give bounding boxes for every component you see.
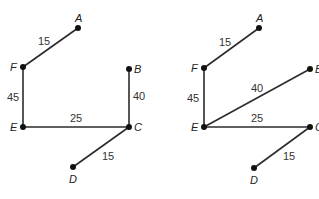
edge-weight-label: 25 [251,112,263,124]
edge-fa [23,28,78,67]
edge-weight-label: 15 [219,36,231,48]
vertex-e [20,124,26,130]
vertex-a [256,25,262,31]
left-graph: 1545402515AFBECD [7,12,145,185]
vertex-c [307,124,313,130]
vertex-d [70,164,76,170]
vertex-label-f: F [10,61,18,73]
vertex-a [75,25,81,31]
edge-weight-label: 15 [283,150,295,162]
vertex-label-c: C [315,121,319,133]
edge-fa [204,28,259,68]
vertex-label-e: E [10,121,18,133]
vertex-label-d: D [250,174,258,186]
vertex-b [307,66,313,72]
right-graph: 1545402515AFBECD [187,12,319,186]
vertex-label-e: E [191,121,199,133]
edge-weight-label: 40 [251,82,263,94]
edge-cd [254,127,310,168]
edge-weight-label: 40 [133,90,145,102]
vertex-label-f: F [191,62,199,74]
vertex-f [201,65,207,71]
vertex-b [126,66,132,72]
vertex-label-a: A [74,12,82,24]
vertex-e [201,124,207,130]
edge-weight-label: 15 [102,150,114,162]
vertex-f [20,64,26,70]
edge-weight-label: 45 [7,91,19,103]
edge-weight-label: 25 [70,112,82,124]
vertex-label-c: C [134,121,142,133]
edge-weight-label: 45 [187,92,199,104]
vertex-label-a: A [255,12,263,24]
edge-cd [73,127,129,167]
vertex-d [251,165,257,171]
edge-weight-label: 15 [38,35,50,47]
vertex-label-d: D [69,173,77,185]
vertex-label-b: B [315,63,319,75]
vertex-c [126,124,132,130]
graph-diagrams: 1545402515AFBECD 1545402515AFBECD [0,0,319,199]
vertex-label-b: B [134,63,141,75]
